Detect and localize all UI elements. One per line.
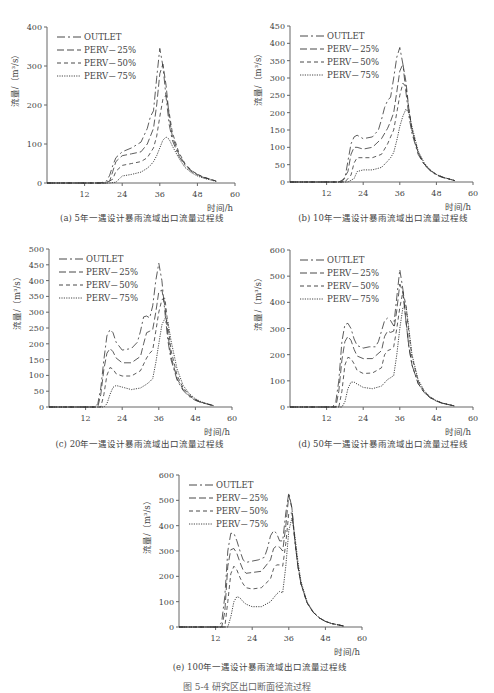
legend-label: PERV－75%	[327, 70, 379, 80]
y-tick-label: 300	[29, 308, 44, 317]
y-tick-label: 100	[27, 140, 42, 149]
x-tick-label: 60	[227, 414, 237, 423]
y-tick-label: 150	[270, 126, 285, 135]
series-line-0	[47, 48, 216, 183]
x-tick-label: 24	[117, 414, 127, 423]
x-tick-label: 60	[468, 189, 478, 198]
y-tick-label: 450	[29, 261, 44, 270]
series-line-2	[290, 292, 455, 407]
x-tick-label: 60	[357, 634, 367, 643]
y-tick-label: 500	[270, 272, 285, 281]
y-axis-label: 流量/（m³/s）	[253, 273, 263, 331]
chart-d: 01002003004005006001224364860时间/h流量/（m³/…	[253, 246, 478, 437]
y-tick-label: 400	[270, 39, 285, 48]
y-tick-label: 350	[270, 57, 285, 66]
x-tick-label: 24	[247, 634, 257, 643]
caption-a: (a) 5年一遇设计暴雨流域出口流量过程线	[42, 211, 242, 223]
x-tick-label: 24	[358, 189, 368, 198]
y-tick-label: 250	[270, 91, 285, 100]
series-line-3	[179, 518, 344, 627]
x-tick-label: 12	[322, 189, 332, 198]
series-line-3	[47, 137, 216, 183]
x-tick-label: 12	[322, 414, 332, 423]
series-line-2	[179, 513, 344, 627]
y-tick-label: 100	[159, 598, 174, 607]
y-tick-label: 300	[27, 62, 42, 71]
legend-label: PERV－25%	[86, 267, 138, 277]
legend-label: OUTLET	[84, 32, 122, 42]
legend-label: PERV－25%	[216, 493, 268, 503]
legend-label: OUTLET	[327, 255, 365, 265]
y-tick-label: 400	[159, 522, 174, 531]
legend-label: PERV－50%	[216, 506, 268, 516]
y-axis-label: 流量/（m³/s）	[142, 496, 152, 554]
y-tick-label: 450	[270, 22, 285, 31]
x-axis-label: 时间/h	[445, 427, 472, 437]
y-tick-label: 250	[29, 324, 44, 333]
y-axis-label: 流量/（m³/s）	[12, 272, 22, 330]
y-tick-label: 0	[39, 403, 44, 412]
x-tick-label: 48	[190, 414, 200, 423]
figure-caption: 图 5-4 研究区出口断面径流过程	[0, 680, 494, 693]
x-tick-label: 24	[117, 190, 127, 199]
x-tick-label: 12	[81, 414, 91, 423]
y-tick-label: 300	[270, 325, 285, 334]
y-tick-label: 400	[270, 298, 285, 307]
x-tick-label: 36	[395, 189, 405, 198]
legend-label: PERV－75%	[84, 71, 136, 81]
y-tick-label: 0	[280, 178, 285, 187]
legend-label: PERV－50%	[86, 280, 138, 290]
y-tick-label: 150	[29, 356, 44, 365]
y-tick-label: 500	[159, 496, 174, 505]
y-axis-label: 流量/（m³/s）	[253, 49, 263, 107]
y-tick-label: 400	[27, 23, 42, 32]
x-tick-label: 48	[320, 634, 330, 643]
y-tick-label: 200	[159, 572, 174, 581]
series-line-2	[290, 83, 455, 182]
y-tick-label: 100	[270, 143, 285, 152]
y-tick-label: 50	[275, 161, 285, 170]
series-line-0	[290, 48, 455, 183]
y-tick-label: 200	[270, 109, 285, 118]
x-tick-label: 60	[230, 190, 240, 199]
legend-label: PERV－25%	[327, 44, 379, 54]
legend-label: PERV－50%	[84, 58, 136, 68]
legend-label: PERV－50%	[327, 281, 379, 291]
legend-label: PERV－25%	[327, 268, 379, 278]
caption-d: (d) 50年一遇设计暴雨流域出口流量过程线	[278, 437, 488, 449]
series-line-1	[47, 64, 216, 183]
x-tick-label: 36	[155, 190, 165, 199]
x-tick-label: 60	[468, 414, 478, 423]
caption-e: (e) 100年一遇设计暴雨流域出口流量过程线	[150, 660, 370, 672]
x-axis-label: 时间/h	[204, 427, 231, 437]
legend-label: OUTLET	[86, 254, 124, 264]
y-tick-label: 400	[29, 277, 44, 286]
x-tick-label: 12	[80, 190, 90, 199]
x-tick-label: 48	[192, 190, 202, 199]
y-tick-label: 200	[29, 340, 44, 349]
chart-a: 01002003004001224364860时间/h流量/（m³/s）OUTL…	[10, 23, 240, 213]
y-tick-label: 200	[27, 101, 42, 110]
x-tick-label: 48	[431, 414, 441, 423]
y-tick-label: 600	[159, 471, 174, 480]
x-tick-label: 36	[284, 634, 294, 643]
chart-b: 0501001502002503003504004501224364860时间/…	[253, 22, 478, 212]
legend-label: OUTLET	[216, 480, 254, 490]
legend-label: PERV－50%	[327, 57, 379, 67]
caption-c: (c) 20年一遇设计暴雨流域出口流量过程线	[30, 437, 250, 449]
legend-label: PERV－25%	[84, 45, 136, 55]
chart-c: 0501001502002503003504004505001224364860…	[12, 245, 237, 437]
legend-label: PERV－75%	[216, 519, 268, 529]
y-tick-label: 300	[270, 74, 285, 83]
series-line-3	[290, 305, 455, 407]
x-tick-label: 36	[395, 414, 405, 423]
x-tick-label: 12	[211, 634, 221, 643]
legend-label: PERV－75%	[327, 294, 379, 304]
series-line-1	[290, 64, 455, 182]
series-line-3	[49, 319, 214, 408]
y-tick-label: 0	[37, 179, 42, 188]
chart-e: 01002003004005006001224364860时间/h流量/（m³/…	[142, 471, 367, 657]
y-tick-label: 0	[280, 403, 285, 412]
y-tick-label: 600	[270, 246, 285, 255]
x-axis-label: 时间/h	[334, 647, 361, 657]
